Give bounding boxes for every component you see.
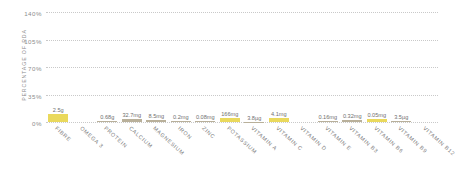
bar-slot[interactable]: 0.08mg [193, 12, 218, 122]
x-axis-labels-group: FIBREOMEGA 3PROTEINCALCIUMMAGNESIUMIRONZ… [46, 122, 438, 181]
y-axis-title: PERCENTAGE OF RDA [21, 13, 27, 117]
bar-value-label: 0.2mg [173, 114, 189, 120]
bar-slot[interactable]: 0.16mg [316, 12, 341, 122]
x-axis-label-zinc: ZINC [201, 125, 217, 140]
bar-slot[interactable] [291, 12, 316, 122]
y-axis-tick-label: 140% [24, 10, 42, 17]
bar-slot[interactable] [414, 12, 439, 122]
bar-value-label: 0.08mg [196, 114, 215, 120]
bar-value-label: 3.5µg [394, 114, 408, 120]
bar-value-label: 0.05mg [367, 112, 386, 118]
bar-slot[interactable]: 3.8µg [242, 12, 267, 122]
x-axis-label-slot: VITAMIN A [242, 122, 267, 181]
bar-value-label: 0.32mg [343, 113, 362, 119]
bar-value-label: 3.8µg [247, 115, 261, 121]
bar-slot[interactable]: 32.7mg [120, 12, 145, 122]
y-axis-tick-label: 105% [24, 37, 42, 44]
bar-slot[interactable]: 3.5µg [389, 12, 414, 122]
bar-slot[interactable]: 8.5mg [144, 12, 169, 122]
x-axis-label-slot: MAGNESIUM [144, 122, 169, 181]
bar-value-label: 0.68g [100, 114, 114, 120]
bar-slot[interactable]: 0.32mg [340, 12, 365, 122]
bar-slot[interactable]: 166mg [218, 12, 243, 122]
x-axis-label-slot: VITAMIN C [267, 122, 292, 181]
x-axis-label-slot: POTASSIUM [218, 122, 243, 181]
x-axis-label-slot: FIBRE [46, 122, 71, 181]
x-axis-label-slot: ZINC [193, 122, 218, 181]
y-axis-tick-label: 0% [32, 120, 42, 127]
bar-value-label: 32.7mg [122, 112, 141, 118]
x-axis-label-slot: PROTEIN [95, 122, 120, 181]
x-axis-label-slot: CALCIUM [120, 122, 145, 181]
bar-slot[interactable]: 4.1mg [267, 12, 292, 122]
x-axis-label-iron: IRON [177, 125, 193, 140]
x-axis-label-slot: VITAMIN B12 [414, 122, 439, 181]
x-axis-label-slot: VITAMIN B3 [340, 122, 365, 181]
x-axis-label-slot: VITAMIN B6 [365, 122, 390, 181]
bar-slot[interactable]: 2.5g [46, 12, 71, 122]
y-axis-tick-label: 70% [28, 65, 42, 72]
y-axis-tick-label: 35% [28, 92, 42, 99]
bar-slot[interactable]: 0.05mg [365, 12, 390, 122]
plot-area: 0%35%70%105%140% 2.5g0.68g32.7mg8.5mg0.2… [46, 12, 438, 122]
bar-fibre[interactable]: 2.5g [48, 114, 68, 122]
x-axis-label-slot: IRON [169, 122, 194, 181]
bar-value-label: 166mg [221, 111, 238, 117]
x-axis-label-slot: VITAMIN B9 [389, 122, 414, 181]
bar-slot[interactable] [71, 12, 96, 122]
bar-slot[interactable]: 0.68g [95, 12, 120, 122]
x-axis-label-vitamin-b12: VITAMIN B12 [422, 125, 456, 157]
bar-value-label: 4.1mg [271, 111, 287, 117]
x-axis-label-slot: VITAMIN E [316, 122, 341, 181]
bar-value-label: 2.5g [53, 107, 64, 113]
bar-value-label: 0.16mg [318, 114, 337, 120]
bar-slot[interactable]: 0.2mg [169, 12, 194, 122]
bars-group: 2.5g0.68g32.7mg8.5mg0.2mg0.08mg166mg3.8µ… [46, 12, 438, 122]
bar-value-label: 8.5mg [148, 113, 164, 119]
x-axis-label-slot: VITAMIN D [291, 122, 316, 181]
x-axis-label-slot: OMEGA 3 [71, 122, 96, 181]
